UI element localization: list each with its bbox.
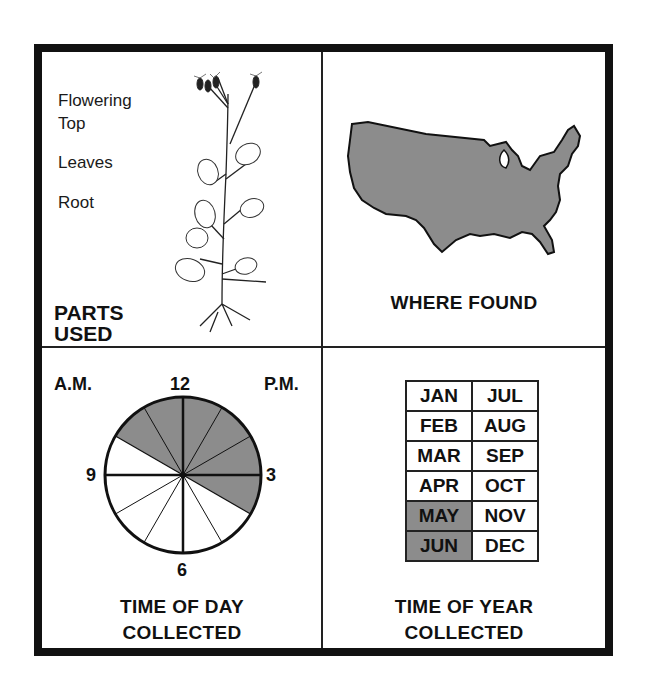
month-row: FEB AUG (406, 411, 538, 441)
month-cell-jan: JAN (406, 381, 472, 411)
part-label-flowering: Flowering (58, 90, 132, 112)
clock-diagram-icon (101, 393, 265, 557)
month-row: JAN JUL (406, 381, 538, 411)
month-row: MAY NOV (406, 501, 538, 531)
part-label-leaves: Leaves (58, 152, 113, 174)
am-label: A.M. (54, 374, 92, 395)
pm-label: P.M. (264, 374, 299, 395)
parts-used-title-line1: PARTS (54, 302, 124, 323)
hour-9-label: 9 (86, 465, 96, 486)
where-found-title: WHERE FOUND (324, 292, 604, 314)
usa-map-icon (346, 116, 588, 258)
month-row: JUN DEC (406, 531, 538, 561)
parts-used-title-line2: USED (54, 323, 112, 344)
month-cell-oct: OCT (472, 471, 538, 501)
plant-illustration-icon (170, 64, 290, 336)
month-cell-may: MAY (406, 501, 472, 531)
hour-6-label: 6 (177, 560, 187, 581)
month-cell-sep: SEP (472, 441, 538, 471)
month-grid: JAN JUL FEB AUG MAR SEP APR OCT MAY NOV … (405, 380, 539, 562)
part-label-top: Top (58, 113, 85, 135)
time-of-year-title-line1: TIME OF YEAR (324, 596, 604, 618)
month-cell-dec: DEC (472, 531, 538, 561)
month-cell-nov: NOV (472, 501, 538, 531)
month-row: MAR SEP (406, 441, 538, 471)
vertical-divider (321, 52, 323, 648)
month-cell-jun: JUN (406, 531, 472, 561)
month-cell-feb: FEB (406, 411, 472, 441)
month-cell-mar: MAR (406, 441, 472, 471)
horizontal-divider (42, 346, 605, 348)
month-row: APR OCT (406, 471, 538, 501)
hour-3-label: 3 (266, 465, 276, 486)
time-of-day-title-line2: COLLECTED (42, 622, 322, 644)
hour-12-label: 12 (170, 374, 190, 395)
month-cell-apr: APR (406, 471, 472, 501)
part-label-root: Root (58, 192, 94, 214)
month-cell-aug: AUG (472, 411, 538, 441)
time-of-year-title-line2: COLLECTED (324, 622, 604, 644)
month-cell-jul: JUL (472, 381, 538, 411)
time-of-day-title-line1: TIME OF DAY (42, 596, 322, 618)
